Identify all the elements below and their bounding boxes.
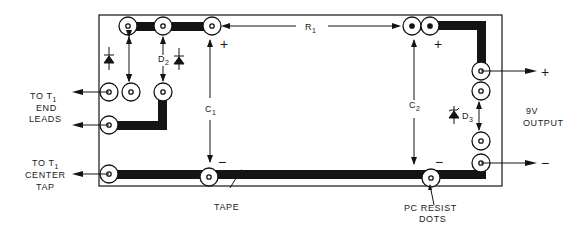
- to-t1-center-label: TO T1: [32, 158, 59, 170]
- c2-plus-sign: +: [434, 36, 442, 52]
- tape-label: TAPE: [214, 202, 239, 212]
- pad: [422, 169, 440, 187]
- output-label: OUTPUT: [523, 118, 564, 128]
- c1-minus-sign: −: [218, 154, 226, 170]
- pad: [403, 17, 421, 35]
- pad: [472, 82, 490, 100]
- tap-label: TAP: [36, 182, 55, 192]
- center-label: CENTER: [25, 170, 66, 180]
- c1-label: C1: [205, 104, 217, 116]
- pc-resist-label: PC RESIST: [404, 203, 457, 213]
- c2-minus-sign: −: [435, 154, 443, 170]
- arrowheads: [126, 23, 482, 165]
- pad: [200, 168, 218, 186]
- pad: [203, 17, 221, 35]
- pad: [119, 17, 137, 35]
- pad: [154, 83, 172, 101]
- pad: [122, 83, 140, 101]
- r1-label: R1: [305, 22, 317, 34]
- leads-label: LEADS: [29, 114, 62, 124]
- dots-label: DOTS: [419, 214, 446, 224]
- diode-d2-icon: [174, 48, 184, 70]
- output-minus-sign: −: [541, 155, 549, 171]
- end-label: END: [36, 103, 57, 113]
- c1-plus-sign: +: [220, 36, 228, 52]
- output-voltage-label: 9V: [526, 106, 538, 116]
- pc-board-diagram: TO T1 END LEADS TO T1 CENTER TAP TAPE PC…: [0, 0, 588, 235]
- d2-label: D2: [158, 54, 170, 66]
- pad: [154, 17, 172, 35]
- zener-d3-icon: [449, 106, 459, 124]
- pad: [472, 132, 490, 150]
- component-leads: [129, 26, 479, 164]
- c2-label: C2: [409, 100, 421, 112]
- diode-d1-icon: [104, 47, 114, 70]
- external-leads: [83, 71, 525, 205]
- output-plus-sign: +: [541, 64, 549, 80]
- d3-label: D3: [462, 111, 474, 123]
- pad: [421, 17, 439, 35]
- to-t1-label: TO T1: [30, 91, 57, 103]
